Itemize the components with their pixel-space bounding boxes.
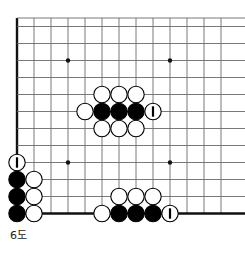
white-stone[interactable] [111,86,127,102]
black-stone[interactable] [128,103,144,119]
black-stone[interactable] [94,103,110,119]
move-number-marker [152,106,154,116]
white-stone[interactable] [145,188,161,204]
stone-disc [94,86,110,102]
stone-disc [128,205,144,221]
white-stone[interactable] [128,86,144,102]
stone-disc [94,103,110,119]
black-stone[interactable] [9,171,25,187]
white-stone[interactable] [26,171,42,187]
black-stone[interactable] [111,103,127,119]
stone-disc [111,103,127,119]
black-stone[interactable] [145,205,161,221]
white-stone[interactable] [111,120,127,136]
figure-caption: 6도 [10,229,27,242]
go-board[interactable] [0,0,245,256]
white-stone[interactable] [77,103,93,119]
stone-disc [111,205,127,221]
stone-disc [145,188,161,204]
white-stone[interactable] [94,86,110,102]
star-point [168,58,172,62]
stone-disc [26,205,42,221]
white-stone[interactable] [26,205,42,221]
stone-disc [145,205,161,221]
stone-disc [94,120,110,136]
stone-disc [9,171,25,187]
stone-disc [111,86,127,102]
white-stone[interactable] [162,205,178,221]
stone-disc [111,120,127,136]
black-stone[interactable] [9,205,25,221]
white-stone[interactable] [128,188,144,204]
white-stone[interactable] [94,205,110,221]
stone-disc [128,120,144,136]
stone-disc [26,188,42,204]
stone-disc [26,171,42,187]
stone-disc [128,103,144,119]
star-point [66,58,70,62]
black-stone[interactable] [128,205,144,221]
stone-disc [94,205,110,221]
go-diagram-figure: 6도 [0,0,245,256]
move-number-marker [169,208,171,218]
stone-disc [128,86,144,102]
white-stone[interactable] [26,188,42,204]
stone-disc [77,103,93,119]
white-stone[interactable] [9,154,25,170]
black-stone[interactable] [9,188,25,204]
white-stone[interactable] [145,103,161,119]
star-point [66,160,70,164]
star-point [168,160,172,164]
stone-disc [9,188,25,204]
stone-disc [9,205,25,221]
white-stone[interactable] [94,120,110,136]
black-stone[interactable] [111,205,127,221]
stone-disc [128,188,144,204]
white-stone[interactable] [128,120,144,136]
stone-disc [111,188,127,204]
white-stone[interactable] [111,188,127,204]
move-number-marker [16,157,18,167]
